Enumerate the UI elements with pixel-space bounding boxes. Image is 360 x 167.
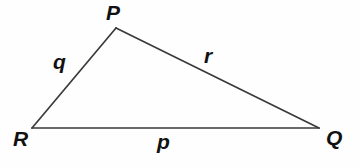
- vertex-label-r: R: [13, 128, 28, 149]
- side-label-p: p: [157, 131, 170, 152]
- vertex-label-q: Q: [326, 127, 342, 148]
- side-label-q: q: [53, 51, 66, 72]
- side-r-line: [116, 28, 319, 128]
- triangle-shape: [0, 0, 360, 167]
- side-q-line: [32, 28, 116, 128]
- triangle-diagram: P Q R q r p: [0, 0, 360, 167]
- side-label-r: r: [204, 45, 212, 66]
- vertex-label-p: P: [106, 2, 120, 23]
